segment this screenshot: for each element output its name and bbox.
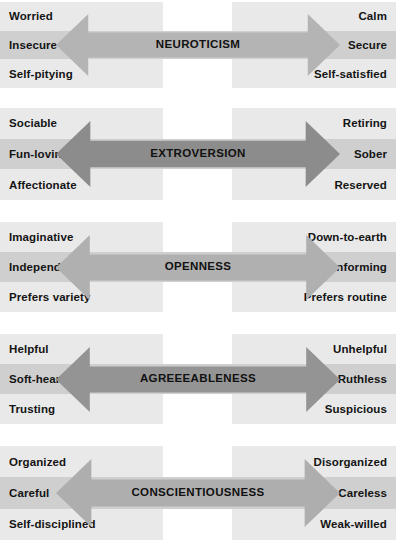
bipolar-arrow-conscientiousness	[0, 459, 396, 527]
bipolar-arrow-agreeableness	[0, 347, 396, 412]
trait-panel-conscientiousness: OrganizedCarefulSelf-disciplinedDisorgan…	[0, 446, 396, 540]
trait-panel-extroversion: SociableFun-lovingAffectionateRetiringSo…	[0, 108, 396, 200]
big-five-diagram: WorriedInsecureSelf-pityingCalmSecureSel…	[0, 0, 396, 546]
bipolar-arrow-neuroticism	[0, 14, 396, 76]
trait-panel-agreeableness: HelpfulSoft-heartedTrustingUnhelpfulRuth…	[0, 334, 396, 424]
trait-panel-openness: ImaginativeIndependentPrefers varietyDow…	[0, 222, 396, 312]
bipolar-arrow-extroversion	[0, 121, 396, 187]
bipolar-arrow-openness	[0, 235, 396, 300]
trait-panel-neuroticism: WorriedInsecureSelf-pityingCalmSecureSel…	[0, 2, 396, 88]
